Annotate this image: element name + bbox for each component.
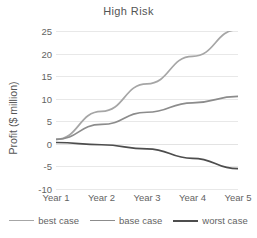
x-axis-tick-label: Year 5 <box>224 192 251 203</box>
x-axis-tick-label: Year 4 <box>179 192 206 203</box>
legend-label: best case <box>38 215 79 226</box>
x-axis-tick-label: Year 2 <box>88 192 115 203</box>
x-axis-tick-label: Year 1 <box>42 192 69 203</box>
series-line-base-case <box>56 96 238 139</box>
legend-swatch-icon <box>9 220 34 221</box>
legend-label: worst case <box>202 215 247 226</box>
legend-item-base-case[interactable]: base case <box>90 215 162 226</box>
legend-item-worst-case[interactable]: worst case <box>173 215 247 226</box>
y-axis-tick-label: 5 <box>47 116 52 127</box>
y-axis-tick-label: 0 <box>47 138 52 149</box>
chart-container: High Risk Profit ($ million) 2520151050-… <box>0 0 257 238</box>
x-axis-tick-label: Year 3 <box>133 192 160 203</box>
chart-title: High Risk <box>0 5 257 17</box>
legend-swatch-icon <box>173 220 198 222</box>
x-axis-tick-labels: Year 1Year 2Year 3Year 4Year 5 <box>56 192 238 208</box>
y-axis-tick-label: 20 <box>41 48 52 59</box>
chart-legend: best casebase caseworst case <box>0 215 257 226</box>
y-axis-tick-label: 25 <box>41 26 52 37</box>
plot-area <box>56 31 238 189</box>
series-line-worst-case <box>56 143 238 169</box>
y-axis-tick-label: 10 <box>41 93 52 104</box>
y-axis-tick-labels: 2520151050-5-10 <box>0 31 56 189</box>
y-axis-tick-label: 15 <box>41 71 52 82</box>
series-lines <box>56 31 238 189</box>
series-line-best-case <box>56 31 238 139</box>
legend-swatch-icon <box>90 220 115 221</box>
y-axis-tick-label: -5 <box>44 161 52 172</box>
legend-item-best-case[interactable]: best case <box>9 215 79 226</box>
gridline <box>56 189 238 190</box>
legend-label: base case <box>119 215 162 226</box>
